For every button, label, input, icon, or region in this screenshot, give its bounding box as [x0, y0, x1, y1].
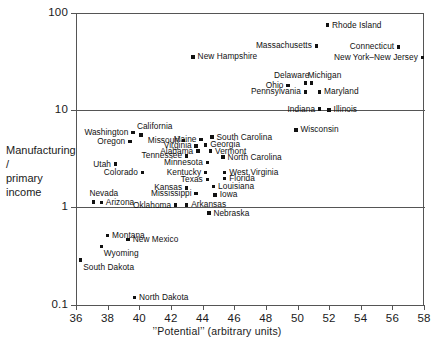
data-point-label: Wisconsin: [300, 125, 338, 134]
x-tick-mark-38: [108, 305, 109, 310]
data-point: [126, 238, 130, 242]
data-point-label: New Hampshire: [198, 52, 258, 61]
data-point-label: Delaware: [0, 71, 309, 80]
data-point: [133, 296, 137, 300]
data-point: [221, 155, 225, 159]
data-point: [327, 108, 331, 112]
data-point: [421, 56, 425, 60]
x-axis-title: ’’Potential’’ (arbitrary units): [0, 325, 434, 337]
data-point: [194, 192, 198, 196]
data-point: [294, 128, 298, 132]
data-point: [213, 193, 217, 197]
x-tick-label-42: 42: [156, 312, 186, 324]
x-tick-mark-52: [329, 305, 330, 310]
data-point-label: Pennsylvania: [0, 87, 301, 96]
x-tick-mark-54: [361, 305, 362, 310]
data-point-label: Nebraska: [213, 209, 249, 218]
x-tick-mark-46: [234, 305, 235, 310]
data-point: [209, 149, 213, 153]
data-point-label: New Mexico: [133, 235, 179, 244]
x-tick-mark-56: [392, 305, 393, 310]
data-point: [114, 162, 118, 166]
x-tick-label-50: 50: [283, 312, 313, 324]
data-point-label: North Carolina: [228, 153, 282, 162]
x-tick-mark-48: [266, 305, 267, 310]
x-tick-label-40: 40: [124, 312, 154, 324]
x-tick-label-38: 38: [93, 312, 123, 324]
x-tick-mark-50: [298, 305, 299, 310]
x-tick-mark-44: [203, 305, 204, 310]
data-point-label: South Dakota: [83, 263, 134, 272]
data-point-label: Indiana: [0, 105, 315, 114]
x-tick-label-44: 44: [188, 312, 218, 324]
data-point-label: California: [137, 122, 173, 131]
data-point: [204, 171, 208, 175]
data-point: [199, 138, 203, 142]
x-tick-label-36: 36: [61, 312, 91, 324]
x-tick-label-46: 46: [219, 312, 249, 324]
x-tick-mark-58: [424, 305, 425, 310]
y-tick-label-0.1: 0.1: [22, 298, 68, 310]
x-tick-label-54: 54: [346, 312, 376, 324]
data-point-label: Maryland: [324, 87, 359, 96]
data-point: [304, 90, 308, 94]
x-axis-line: [76, 305, 424, 306]
data-point: [204, 143, 208, 147]
data-point-label: Illinois: [334, 105, 357, 114]
data-point: [397, 45, 401, 49]
data-point: [318, 90, 322, 94]
data-point: [131, 131, 135, 135]
data-point: [194, 144, 198, 148]
data-point-label: Connecticut: [0, 42, 394, 51]
data-point: [304, 81, 308, 85]
data-point: [207, 211, 211, 215]
data-point: [185, 203, 189, 207]
data-point: [318, 107, 322, 111]
data-point: [106, 234, 110, 238]
y-tick-label-100: 100: [22, 6, 68, 18]
data-point: [206, 178, 210, 182]
data-point: [310, 81, 314, 85]
data-point-label: Iowa: [220, 190, 238, 199]
data-point-label: North Dakota: [139, 293, 188, 302]
x-tick-mark-42: [171, 305, 172, 310]
x-tick-label-48: 48: [251, 312, 281, 324]
data-point: [326, 23, 330, 27]
data-point: [196, 149, 200, 153]
x-tick-mark-40: [139, 305, 140, 310]
data-point: [206, 161, 210, 165]
data-point: [100, 245, 104, 249]
data-point: [79, 258, 83, 262]
data-point-label: Michigan: [308, 71, 342, 80]
data-point: [223, 177, 227, 181]
data-point-label: Wyoming: [104, 249, 139, 258]
data-point: [191, 55, 195, 59]
scatter-chart: 100 10 1 0.1 Manufacturing / primary inc…: [0, 0, 434, 346]
data-point: [212, 185, 216, 189]
x-tick-label-58: 58: [409, 312, 434, 324]
x-tick-label-56: 56: [377, 312, 407, 324]
data-point: [223, 171, 227, 175]
data-point: [141, 171, 145, 175]
x-tick-label-52: 52: [314, 312, 344, 324]
data-point-label: Oklahoma: [0, 201, 171, 210]
data-point: [174, 203, 178, 207]
x-tick-mark-36: [76, 305, 77, 310]
data-point-label: Rhode Island: [332, 21, 382, 30]
